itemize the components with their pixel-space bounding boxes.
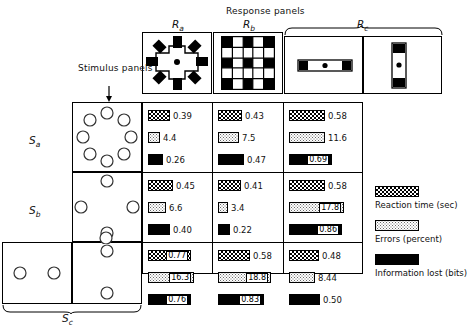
radial-starburst-icon [143,33,211,93]
data-cell-sc-rc-err: 8.44 [289,272,337,283]
bar-value-err: 7.5 [242,133,256,143]
legend-label-errors: Errors (percent) [375,234,467,244]
bar-value-err: 11.6 [328,133,347,143]
legend-label-information-lost: Information lost (bits) [375,268,467,278]
bar-info: 0.86 [289,224,342,235]
data-cell-sa-rc-info: 0.69 [289,154,332,165]
legend-item-information-lost: Information lost (bits) [375,254,467,278]
data-cell-sb-ra-rt: 0.45 [148,180,195,191]
stimulus-panels-note: Stimulus panels [78,63,140,74]
stimulus-label-sb: Sb [29,204,40,219]
two-dot-vertical-icon [73,243,141,303]
bar-value-rt: 0.45 [176,181,195,191]
rc-brace [284,26,444,36]
eight-dot-ring-icon [73,103,141,171]
bar-value-err: 17.8 [319,203,341,213]
data-cell-sc-ra-rt: 0.77 [148,250,191,261]
data-cell-sc-rb-info: 0.83 [218,294,264,305]
data-cell-sb-rc-rt: 0.58 [289,180,347,191]
data-cell-sa-rc-err: 11.6 [289,132,347,143]
data-cell-sc-rb-rt: 0.58 [218,250,272,261]
bar-err: 17.8 [289,202,344,213]
bar-rt [289,250,319,261]
stimulus-label-sa-sub: a [36,140,41,149]
matrix-row-divider-2 [142,242,363,243]
data-cell-sb-rb-err: 3.4 [218,202,245,213]
figure-root: Response panels Ra Rb Rc [0,0,467,328]
bar-value-err: 6.6 [169,203,183,213]
bar-value-rt: 0.43 [245,111,264,121]
data-cell-sa-rb-rt: 0.43 [218,110,264,121]
bar-value-rt: 0.58 [253,251,272,261]
bar-err [218,132,239,143]
bar-value-err: 18.8 [246,273,268,283]
bar-value-info: 0.26 [166,155,185,165]
data-cell-sb-ra-err: 6.6 [148,202,183,213]
bar-rt [218,110,242,121]
bar-rt [218,180,241,191]
bar-info [148,224,170,235]
bar-value-err: 3.4 [231,203,245,213]
bar-err [289,132,325,143]
response-label-ra: Ra [172,18,184,33]
stimulus-panel-sc-top-dot-icon [72,228,142,244]
bar-info [148,154,163,165]
data-cell-sc-rc-info: 0.50 [289,294,342,305]
data-cell-sa-ra-rt: 0.39 [148,110,192,121]
matrix-row-divider-1 [142,172,363,173]
bar-rt [289,110,325,121]
data-cell-sa-ra-err: 4.4 [148,132,177,143]
matrix-col-divider-1 [212,102,213,274]
data-cell-sc-ra-info: 0.76 [148,294,191,305]
stimulus-panel-sc-right [72,242,142,304]
grid-matrix-icon [214,33,282,93]
bar-info: 0.76 [148,294,191,305]
bar-rt [218,250,250,261]
bar-err: 18.8 [218,272,271,283]
stimulus-label-sb-sub: b [36,210,41,219]
bar-rt [148,110,170,121]
two-dot-icon [3,243,71,303]
bar-value-info: 0.47 [247,155,266,165]
bar-rt [148,180,173,191]
bar-info: 0.83 [218,294,264,305]
bar-value-err: 8.44 [318,273,337,283]
bar-value-rt: 0.77 [166,251,188,261]
bar-value-info: 0.40 [173,225,192,235]
bar-value-rt: 0.41 [244,181,263,191]
bar-info [218,224,230,235]
bar-rt [289,180,325,191]
matrix-col-divider-2 [283,102,284,274]
legend: Reaction time (sec) Errors (percent) Inf… [375,186,467,278]
response-panel-rc-vertical [363,36,442,94]
legend-item-reaction-time: Reaction time (sec) [375,186,467,210]
vertical-bar-icon [364,37,441,93]
bar-value-rt: 0.39 [173,111,192,121]
response-panel-rc-horizontal [284,36,363,94]
bar-err [148,132,160,143]
bar-value-rt: 0.58 [328,111,347,121]
bar-err [218,202,228,213]
horizontal-bar-icon [285,37,362,93]
bar-info: 0.69 [289,154,332,165]
response-label-rb: Rb [243,18,255,33]
bar-value-err: 4.4 [163,133,177,143]
bar-info [289,294,320,305]
response-panel-rb [213,32,283,94]
bar-err [289,272,315,283]
data-cell-sa-rb-info: 0.47 [218,154,266,165]
stimulus-label-sa: Sa [29,134,40,149]
bar-value-info: 0.86 [317,225,339,235]
bar-value-info: 0.50 [323,295,342,305]
legend-swatch-information-lost [375,254,419,265]
data-cell-sa-ra-info: 0.26 [148,154,185,165]
data-cell-sb-ra-info: 0.40 [148,224,192,235]
stimulus-label-sb-text: S [29,204,36,216]
data-cell-sa-rc-rt: 0.58 [289,110,347,121]
data-cell-sb-rb-rt: 0.41 [218,180,263,191]
data-cell-sc-ra-err: 16.3 [148,272,194,283]
bar-info [218,154,244,165]
bar-value-info: 0.69 [307,155,329,165]
bar-value-info: 0.83 [239,295,261,305]
data-cell-sc-rc-rt: 0.48 [289,250,341,261]
